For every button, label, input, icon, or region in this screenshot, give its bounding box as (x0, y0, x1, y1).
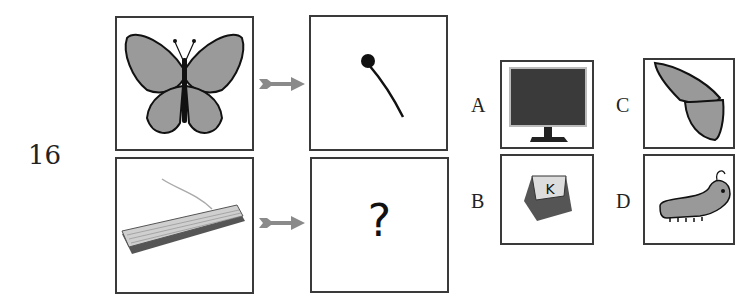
antenna-icon (311, 17, 446, 149)
caterpillar-icon (645, 156, 735, 243)
option-a-monitor[interactable] (500, 60, 594, 149)
option-letter-a: A (471, 94, 485, 117)
arrow-icon (259, 76, 305, 92)
option-d-caterpillar[interactable] (643, 154, 735, 245)
question-mark: ? (312, 195, 447, 246)
butterfly-wing-icon (645, 60, 735, 147)
butterfly-icon (117, 18, 252, 149)
option-letter-c: C (616, 94, 629, 117)
target-box-unknown: ? (310, 157, 449, 293)
source-box-butterfly (115, 16, 254, 151)
keyboard-icon (117, 159, 252, 292)
source-box-keyboard (115, 157, 254, 294)
option-c-wing[interactable] (643, 58, 735, 149)
option-letter-b: B (471, 190, 484, 213)
option-b-key[interactable]: K (500, 154, 594, 245)
key-label: K (545, 181, 555, 197)
monitor-icon (502, 62, 592, 147)
question-number: 16 (28, 140, 61, 170)
target-box-antenna (309, 15, 448, 151)
option-letter-d: D (616, 190, 630, 213)
arrow-icon (259, 215, 305, 231)
key-icon: K (502, 156, 592, 243)
